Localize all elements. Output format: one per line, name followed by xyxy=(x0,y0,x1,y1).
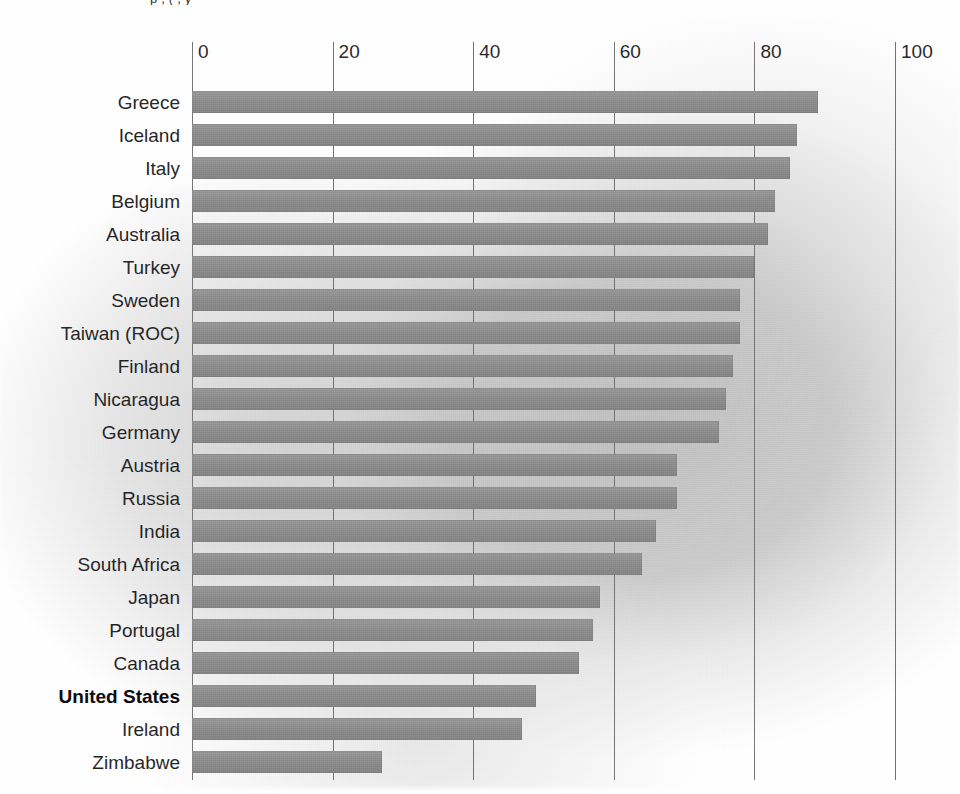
bar-row[interactable]: Portugal xyxy=(192,618,895,651)
category-label: Russia xyxy=(122,488,180,510)
bar[interactable] xyxy=(192,322,740,344)
bar[interactable] xyxy=(192,421,719,443)
category-label: India xyxy=(139,521,180,543)
gridline-100 xyxy=(895,42,896,780)
bar[interactable] xyxy=(192,190,775,212)
bar-row[interactable]: Nicaragua xyxy=(192,387,895,420)
x-tick-label-80: 80 xyxy=(754,41,781,63)
category-label: United States xyxy=(59,686,180,708)
x-tick-label-100: 100 xyxy=(895,41,933,63)
category-label: South Africa xyxy=(78,554,180,576)
bar[interactable] xyxy=(192,256,754,278)
category-label: Zimbabwe xyxy=(92,752,180,774)
bar-row[interactable]: Sweden xyxy=(192,288,895,321)
bar[interactable] xyxy=(192,619,593,641)
category-label: Belgium xyxy=(111,191,180,213)
bar-row[interactable]: Ireland xyxy=(192,717,895,750)
category-label: Canada xyxy=(113,653,180,675)
bar-row[interactable]: Germany xyxy=(192,420,895,453)
bar[interactable] xyxy=(192,157,790,179)
category-label: Japan xyxy=(128,587,180,609)
category-label: Finland xyxy=(118,356,180,378)
bar[interactable] xyxy=(192,388,726,410)
category-label: Ireland xyxy=(122,719,180,741)
bar[interactable] xyxy=(192,685,536,707)
category-label: Greece xyxy=(118,92,180,114)
bar[interactable] xyxy=(192,553,642,575)
category-label: Austria xyxy=(121,455,180,477)
bar-rows: GreeceIcelandItalyBelgiumAustraliaTurkey… xyxy=(192,90,895,783)
bar[interactable] xyxy=(192,124,797,146)
category-label: Italy xyxy=(145,158,180,180)
bar[interactable] xyxy=(192,718,522,740)
bar-row[interactable]: Taiwan (ROC) xyxy=(192,321,895,354)
category-label: Portugal xyxy=(109,620,180,642)
category-label: Turkey xyxy=(123,257,180,279)
category-label: Taiwan (ROC) xyxy=(61,323,180,345)
chart-figure: p , ( , y 020406080100 GreeceIcelandItal… xyxy=(0,0,960,794)
x-tick-label-0: 0 xyxy=(192,41,209,63)
category-label: Germany xyxy=(102,422,180,444)
bar-row[interactable]: Zimbabwe xyxy=(192,750,895,783)
bar-row[interactable]: Finland xyxy=(192,354,895,387)
x-tick-label-20: 20 xyxy=(333,41,360,63)
bar-row[interactable]: Greece xyxy=(192,90,895,123)
category-label: Sweden xyxy=(111,290,180,312)
x-tick-label-60: 60 xyxy=(614,41,641,63)
bar[interactable] xyxy=(192,454,677,476)
category-label: Australia xyxy=(106,224,180,246)
bar[interactable] xyxy=(192,289,740,311)
bar[interactable] xyxy=(192,91,818,113)
bar-row[interactable]: South Africa xyxy=(192,552,895,585)
bar[interactable] xyxy=(192,520,656,542)
clipped-caption-fragment: p , ( , y xyxy=(150,0,570,5)
bar-row[interactable]: Canada xyxy=(192,651,895,684)
bar-row[interactable]: Belgium xyxy=(192,189,895,222)
bar[interactable] xyxy=(192,586,600,608)
bar[interactable] xyxy=(192,487,677,509)
bar-row[interactable]: Japan xyxy=(192,585,895,618)
category-label: Iceland xyxy=(119,125,180,147)
bar-row[interactable]: Russia xyxy=(192,486,895,519)
bar-row[interactable]: Turkey xyxy=(192,255,895,288)
bar-row[interactable]: India xyxy=(192,519,895,552)
bar-row[interactable]: Italy xyxy=(192,156,895,189)
bar-row[interactable]: Australia xyxy=(192,222,895,255)
category-label: Nicaragua xyxy=(93,389,180,411)
bar-row[interactable]: Austria xyxy=(192,453,895,486)
x-tick-label-40: 40 xyxy=(473,41,500,63)
plot-area: 020406080100 GreeceIcelandItalyBelgiumAu… xyxy=(192,42,895,780)
bar[interactable] xyxy=(192,652,579,674)
bar-row[interactable]: United States xyxy=(192,684,895,717)
bar[interactable] xyxy=(192,223,768,245)
bar[interactable] xyxy=(192,751,382,773)
bar-row[interactable]: Iceland xyxy=(192,123,895,156)
bar[interactable] xyxy=(192,355,733,377)
